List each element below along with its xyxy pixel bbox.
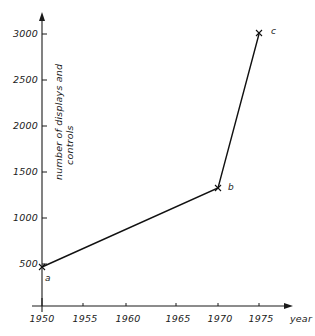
x-axis-title: year: [289, 313, 313, 324]
y-tick-labels: 3000 2500 2000 1500 1000 500: [13, 28, 38, 269]
x-tick-labels: 1950 1955 1960 1965 1970 1975: [30, 313, 274, 324]
x-tick-marks: [42, 298, 259, 312]
y-tick-label-3000: 3000: [13, 28, 38, 39]
x-tick-label-1965: 1965: [166, 313, 191, 324]
y-axis-title-line-1: number of displays and: [53, 63, 64, 180]
y-axis-title-line-2: controls: [64, 125, 75, 165]
chart-figure: 3000 2500 2000 1500 1000 500 1950 1955 1…: [0, 0, 315, 336]
x-axis: [32, 303, 293, 309]
y-tick-label-1000: 1000: [13, 212, 38, 223]
y-axis-title: number of displays and controls: [53, 63, 75, 180]
y-tick-label-2000: 2000: [13, 120, 38, 131]
data-point-label-a: a: [45, 273, 51, 283]
y-tick-label-2500: 2500: [13, 74, 38, 85]
x-tick-label-1955: 1955: [73, 313, 98, 324]
y-tick-marks: [42, 34, 47, 264]
data-point-labels: a b c: [45, 26, 276, 283]
y-axis-arrow-icon: [39, 12, 45, 21]
y-tick-label-500: 500: [19, 258, 38, 269]
data-point-label-b: b: [228, 182, 234, 192]
y-axis: [39, 12, 45, 306]
x-axis-arrow-icon: [284, 303, 293, 309]
y-tick-label-1500: 1500: [13, 166, 38, 177]
x-tick-label-1960: 1960: [116, 313, 141, 324]
chart-canvas: 3000 2500 2000 1500 1000 500 1950 1955 1…: [0, 0, 315, 336]
x-tick-label-1950: 1950: [30, 313, 55, 324]
x-tick-label-1975: 1975: [249, 313, 274, 324]
x-tick-label-1970: 1970: [208, 313, 233, 324]
data-point-label-c: c: [271, 26, 276, 36]
